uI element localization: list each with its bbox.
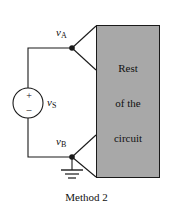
block-text-line-1: Rest	[96, 63, 160, 74]
node-b-fanout-upper	[72, 135, 96, 157]
block-text-line-3: circuit	[96, 133, 160, 144]
figure-caption: Method 2	[0, 191, 173, 203]
circuit-figure: + – vS vA vB Rest of the circuit Method …	[0, 0, 173, 211]
source-plus-sign: +	[23, 91, 35, 101]
earth-ground-icon	[61, 170, 83, 178]
node-a-fanout-lower	[72, 48, 96, 70]
node-b-label: vB	[56, 136, 66, 149]
source-label: vS	[47, 97, 57, 110]
node-b-label-subscript: B	[61, 140, 66, 149]
node-a-label-subscript: A	[61, 31, 67, 40]
node-a-dot	[69, 45, 75, 51]
source-label-subscript: S	[52, 101, 56, 110]
node-b-dot	[69, 154, 75, 160]
top-wire	[28, 48, 72, 88]
node-a-label: vA	[56, 27, 67, 40]
node-a-fanout-upper	[72, 26, 96, 48]
block-text-line-2: of the	[96, 98, 160, 109]
source-minus-sign: –	[23, 105, 35, 115]
